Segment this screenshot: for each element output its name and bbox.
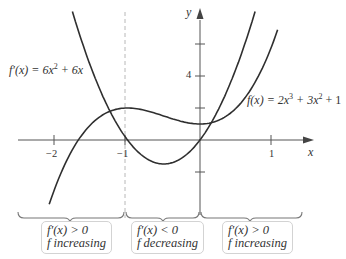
y-tick-label-4: 4 (186, 70, 191, 81)
curve-f-prime (72, 12, 255, 164)
f-label-mid: + 3x (293, 93, 318, 107)
f-label-suffix: + 1 (323, 93, 342, 107)
f-label-prefix: f(x) = 2x (247, 93, 289, 107)
y-axis-arrow-icon (197, 8, 204, 19)
interval-3-behavior: f increasing (228, 237, 287, 250)
y-axis-label: y (186, 6, 191, 18)
interval-box-2: f′(x) < 0 f decreasing (131, 221, 204, 254)
x-axis-arrow-icon (303, 137, 314, 144)
x-tick-label-1: 1 (269, 149, 274, 160)
f-prime-label-prefix: f′(x) = 6x (9, 63, 54, 77)
x-tick-label-neg2: −2 (46, 149, 57, 160)
x-tick-label-neg1: −1 (117, 149, 128, 160)
f-prime-label-suffix: + 6x (58, 63, 83, 77)
interval-box-3: f′(x) > 0 f increasing (222, 221, 293, 254)
f-prime-label: f′(x) = 6x2 + 6x (9, 63, 83, 76)
interval-1-behavior: f increasing (47, 237, 106, 250)
f-label: f(x) = 2x3 + 3x2 + 1 (247, 93, 341, 106)
interval-box-1: f′(x) > 0 f increasing (41, 221, 112, 254)
interval-2-behavior: f decreasing (137, 237, 198, 250)
x-axis-label: x (308, 146, 313, 158)
curve-f (49, 30, 277, 205)
